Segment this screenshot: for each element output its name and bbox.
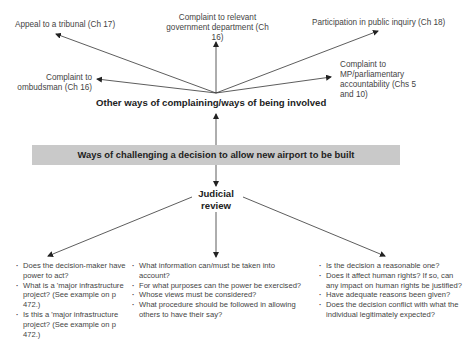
branch-government-line-1: Complaint to relevant <box>160 13 275 23</box>
branch-government-line-2: government department (Ch 16) <box>160 23 275 43</box>
list-item: Is the decision a reasonable one? <box>319 261 464 271</box>
jr-group-procedure: What information can/must be taken into … <box>132 261 307 320</box>
branch-government-department: Complaint to relevant government departm… <box>160 13 275 43</box>
list-item: Whose views must be considered? <box>132 290 307 300</box>
branch-ombudsman: Complaint to ombudsman (Ch 16) <box>8 73 92 93</box>
branch-mp-line-1: Complaint to <box>340 60 440 70</box>
jr-group-rationality: Is the decision a reasonable one? Does i… <box>319 261 464 320</box>
branch-ombudsman-line-2: ombudsman (Ch 16) <box>8 83 92 93</box>
branch-mp-parliamentary: Complaint to MP/parliamentary accountabi… <box>340 60 440 100</box>
judicial-review-line-1: Judicial <box>186 188 246 200</box>
branch-mp-line-2: MP/parliamentary <box>340 70 440 80</box>
list-item: What information can/must be taken into … <box>132 261 307 281</box>
branch-public-inquiry: Participation in public inquiry (Ch 18) <box>312 18 445 28</box>
list-item: Is this a 'major infrastructure project?… <box>16 310 126 339</box>
branch-mp-line-4: and 10) <box>340 90 440 100</box>
list-item: Have adequate reasons been given? <box>319 290 464 300</box>
list-item: What is a 'major infrastructure project?… <box>16 281 126 310</box>
list-item: Does the decision-maker have power to ac… <box>16 261 126 281</box>
branch-tribunal: Appeal to a tribunal (Ch 17) <box>15 20 115 30</box>
list-item: What procedure should be followed in all… <box>132 300 307 320</box>
central-title-band: Ways of challenging a decision to allow … <box>32 145 400 165</box>
list-item: For what purposes can the power be exerc… <box>132 281 307 291</box>
other-ways-heading: Other ways of complaining/ways of being … <box>96 97 326 109</box>
branch-mp-line-3: accountability (Chs 5 <box>340 80 440 90</box>
list-item: Does the decision conflict with what the… <box>319 300 464 320</box>
jr-group-legality: Does the decision-maker have power to ac… <box>16 261 126 339</box>
list-item: Does it affect human rights? If so, can … <box>319 271 464 291</box>
judicial-review-line-2: review <box>186 200 246 212</box>
judicial-review-heading: Judicial review <box>186 188 246 212</box>
branch-ombudsman-line-1: Complaint to <box>8 73 92 83</box>
